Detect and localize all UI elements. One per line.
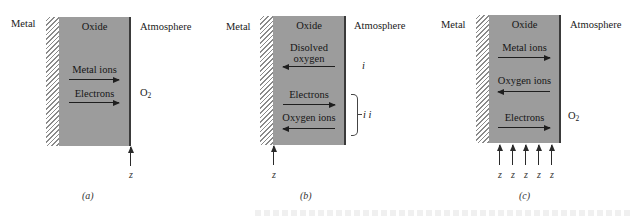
oxide-label: Oxide — [489, 19, 560, 31]
flow-label-oxygen-ions: Oxygen ions — [489, 75, 560, 87]
reaction-site-label: z — [521, 169, 531, 181]
flow-label-metal-ions: Metal ions — [489, 42, 560, 54]
panel-b: Metal Oxide Atmosphere Disolved oxygen E… — [210, 0, 420, 216]
up-arrow-icon — [130, 147, 131, 166]
metal-label: Metal — [11, 18, 36, 30]
up-arrow-icon — [512, 145, 513, 165]
right-arrow-icon — [498, 57, 550, 58]
oxide-atmosphere-interface — [129, 17, 131, 146]
brace-tip — [358, 114, 362, 115]
mechanism-label-ii: i i — [363, 109, 371, 121]
left-arrow-icon — [283, 66, 335, 67]
flow-label-electrons: Electrons — [273, 89, 345, 101]
right-arrow-icon — [498, 127, 550, 128]
flow-label-metal-ions: Metal ions — [59, 64, 130, 76]
oxygen-gas-label: O2 — [568, 110, 579, 125]
left-arrow-icon — [283, 128, 335, 129]
brace-icon — [351, 94, 358, 136]
metal-label: Metal — [441, 19, 466, 31]
flow-label-electrons: Electrons — [59, 88, 130, 100]
oxide-label: Oxide — [59, 21, 130, 33]
reaction-site-label: z — [126, 169, 136, 181]
right-arrow-icon — [283, 104, 335, 105]
up-arrow-icon — [499, 145, 500, 165]
metal-label: Metal — [226, 21, 251, 33]
flow-label-electrons: Electrons — [489, 112, 560, 124]
atmosphere-label: Atmosphere — [354, 20, 405, 32]
oxide-atmosphere-interface — [344, 16, 346, 145]
left-arrow-icon — [498, 91, 550, 92]
right-arrow-icon — [69, 102, 119, 103]
reaction-site-label: z — [534, 169, 544, 181]
reaction-site-label: z — [495, 169, 505, 181]
mechanism-label-i: i — [362, 60, 365, 72]
panel-a: Metal Oxide Atmosphere Metal ions Electr… — [0, 0, 210, 216]
panel-caption: (c) — [519, 190, 530, 202]
metal-hatch — [46, 17, 59, 146]
panel-c: Metal Oxide Atmosphere Metal ions Oxygen… — [420, 0, 630, 216]
up-arrow-icon — [551, 145, 552, 165]
reaction-site-label: z — [508, 169, 518, 181]
up-arrow-icon — [273, 146, 274, 165]
metal-hatch — [476, 15, 489, 143]
up-arrow-icon — [538, 145, 539, 165]
oxygen-gas-label: O2 — [140, 87, 151, 102]
oxide-label: Oxide — [273, 20, 345, 32]
page-bleed-through — [255, 210, 632, 216]
right-arrow-icon — [69, 79, 119, 80]
metal-hatch — [260, 16, 273, 145]
atmosphere-label: Atmosphere — [140, 21, 191, 33]
atmosphere-label: Atmosphere — [570, 19, 621, 31]
up-arrow-icon — [525, 145, 526, 165]
reaction-site-label: z — [547, 169, 557, 181]
panel-caption: (a) — [82, 190, 94, 202]
panel-caption: (b) — [300, 190, 312, 202]
reaction-site-label: z — [269, 169, 279, 181]
flow-label-oxygen-ions: Oxygen ions — [273, 112, 345, 124]
